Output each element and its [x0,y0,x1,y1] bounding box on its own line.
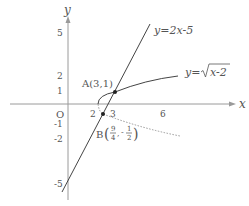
B-y-denominator: 2 [127,134,131,142]
y-axis-arrow-icon [66,16,71,23]
y-tick-5: 5 [57,28,63,38]
line-equation-label: y=2x-5 [153,24,193,37]
sqrt-equation-label: y= x-2 [184,64,230,79]
y-tick-neg2: -2 [54,134,63,144]
comma: , [117,129,120,138]
paren-right: ) [133,126,138,142]
y-tick-neg1: -1 [54,119,63,129]
x-axis-label: x [239,97,246,111]
graph-canvas: y x O 2 3 6 5 2 1 -1 -2 -5 A(3,1) B ( 9 … [0,0,249,206]
x-tick-3: 3 [110,109,116,119]
y-tick-1: 1 [57,86,63,96]
y-axis-label: y [63,3,71,17]
x-axis-arrow-icon [229,102,236,107]
x-tick-6: 6 [160,109,166,119]
y-tick-neg5: -5 [54,179,63,189]
sqrt-eq-prefix: y= [184,66,200,79]
B-x-numerator: 9 [111,125,115,133]
sqrt-eq-radicand: x-2 [210,66,227,79]
point-A [113,90,117,94]
point-B-label: B ( 9 4 , - 1 2 ) [96,125,138,142]
B-y-numerator: 1 [127,125,131,133]
line-y-2x-5 [62,24,150,192]
paren-left: ( [104,126,109,142]
x-tick-2: 2 [90,109,96,119]
point-B [101,112,105,116]
point-A-label: A(3,1) [81,78,113,89]
y-tick-2: 2 [57,71,63,81]
axes [10,16,236,200]
point-B-prefix: B [96,129,103,140]
B-y-sign: - [121,128,124,137]
B-x-denominator: 4 [111,134,116,142]
